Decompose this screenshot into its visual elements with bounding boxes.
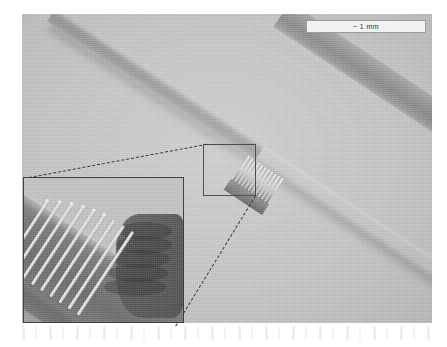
inset-micro-wire xyxy=(23,204,73,280)
scan-noise-strip xyxy=(22,326,432,340)
fibre-upper-segment xyxy=(47,14,264,159)
inset-panel xyxy=(23,177,184,323)
figure-container: ~ 1 mm xyxy=(0,0,447,347)
scale-bar: ~ 1 mm xyxy=(306,20,426,33)
fibre-lower-segment xyxy=(273,14,432,209)
inset-micro-wire xyxy=(23,202,61,273)
scale-bar-label: ~ 1 mm xyxy=(353,23,379,30)
region-of-interest-box xyxy=(203,144,256,196)
